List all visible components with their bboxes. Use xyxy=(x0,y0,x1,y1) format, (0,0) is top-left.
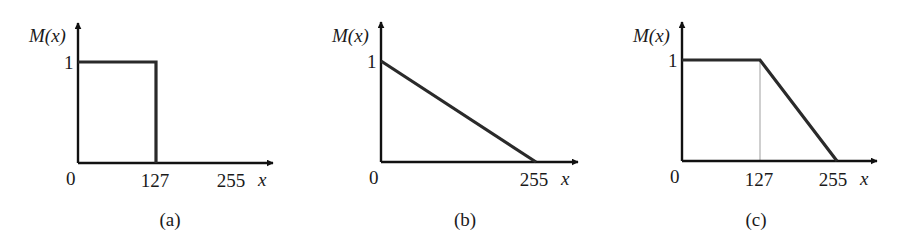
x-axis-label: x xyxy=(560,168,570,189)
y-axis-label: M(x) xyxy=(331,25,369,47)
y-axis-label: M(x) xyxy=(632,25,670,47)
x-tick-0: 0 xyxy=(369,167,379,188)
x-axis-label: x xyxy=(859,168,869,189)
panel-b: M(x) 1 0 255 x (b) xyxy=(331,22,578,231)
caption-c: (c) xyxy=(745,209,766,231)
x-tick-255: 255 xyxy=(819,169,848,190)
caption-a: (a) xyxy=(159,209,180,231)
x-tick-127: 127 xyxy=(141,170,170,191)
x-tick-0: 0 xyxy=(670,166,680,187)
y-tick-1: 1 xyxy=(367,51,377,72)
panel-a: M(x) 1 0 127 255 x (a) xyxy=(28,23,273,231)
x-tick-255: 255 xyxy=(520,169,549,190)
y-tick-1: 1 xyxy=(64,52,74,73)
x-tick-255: 255 xyxy=(217,170,246,191)
x-axis-label: x xyxy=(257,169,267,190)
membership-curve xyxy=(381,61,536,162)
membership-curve xyxy=(78,62,156,163)
x-tick-127: 127 xyxy=(745,169,774,190)
panel-c: M(x) 1 0 127 255 x (c) xyxy=(632,22,877,231)
figure-canvas: M(x) 1 0 127 255 x (a) M(x) 1 0 255 x (b… xyxy=(0,0,910,252)
caption-b: (b) xyxy=(454,209,476,231)
y-tick-1: 1 xyxy=(668,50,678,71)
x-tick-0: 0 xyxy=(66,168,76,189)
y-axis-label: M(x) xyxy=(28,25,66,47)
